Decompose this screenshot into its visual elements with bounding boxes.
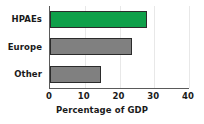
x-tick-label: 30 (147, 92, 159, 101)
bar-other (50, 66, 101, 83)
bar-row (50, 38, 189, 55)
category-label-other: Other (0, 70, 46, 79)
bar-chart: HPAEs Europe Other 010203040 Percentage … (0, 0, 204, 124)
bar-europe (50, 38, 132, 55)
bar-series (50, 6, 189, 88)
bar-row (50, 11, 189, 28)
x-tick-label: 0 (46, 92, 52, 101)
category-axis-labels: HPAEs Europe Other (0, 6, 46, 88)
bar-row (50, 66, 189, 83)
plot-area (49, 6, 189, 89)
x-tick-label: 10 (78, 92, 90, 101)
x-axis-tick-labels: 010203040 (49, 92, 188, 104)
gridline (189, 6, 190, 88)
x-tick-label: 40 (182, 92, 194, 101)
x-tick-label: 20 (113, 92, 125, 101)
category-label-europe: Europe (0, 43, 46, 52)
x-axis-title: Percentage of GDP (0, 106, 204, 115)
category-label-hpaes: HPAEs (0, 15, 46, 24)
bar-hpaes (50, 11, 147, 28)
